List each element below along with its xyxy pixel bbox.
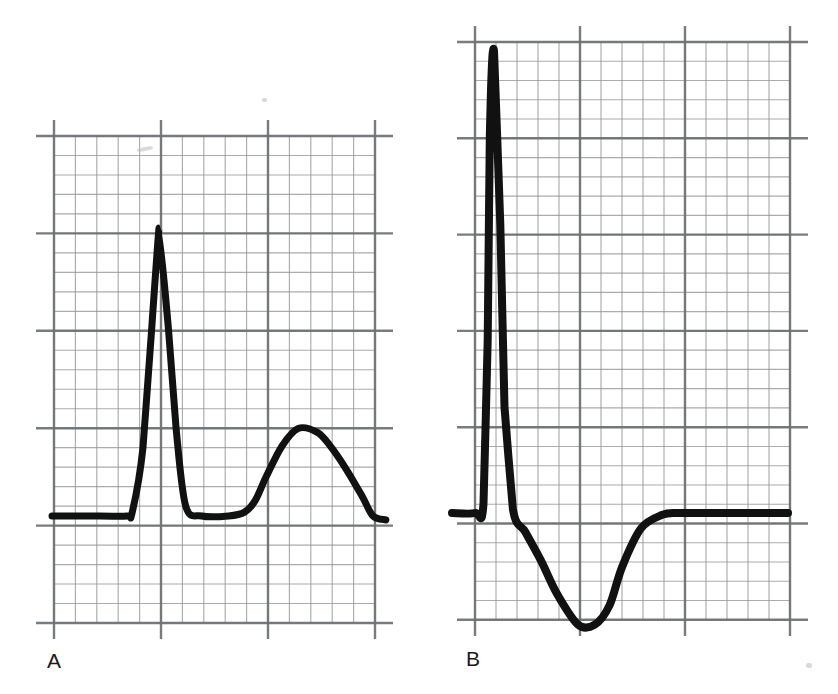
scan-artifact xyxy=(262,98,267,102)
panel-a-major-grid xyxy=(36,120,393,639)
panel-a-minor-grid xyxy=(54,136,375,623)
panel-a-label: A xyxy=(47,650,62,671)
panel-b-minor-grid xyxy=(475,42,790,620)
panel-b-ecg-trace xyxy=(452,49,788,628)
ecg-panel-a xyxy=(0,0,838,694)
ecg-figure: A B xyxy=(0,0,838,694)
panel-b-major-grid xyxy=(457,26,808,636)
scan-artifact xyxy=(137,145,153,152)
scan-artifact xyxy=(806,663,812,668)
ecg-panel-b xyxy=(0,0,838,694)
panel-b-label: B xyxy=(466,648,481,669)
panel-a-ecg-trace xyxy=(52,228,386,520)
